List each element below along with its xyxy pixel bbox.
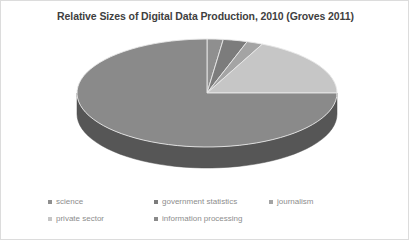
chart-screenshot: Relative Sizes of Digital Data Productio…	[0, 0, 409, 240]
pie-group	[77, 39, 337, 168]
legend-color-swatch	[154, 217, 158, 221]
legend-item-label: journalism	[277, 198, 313, 206]
legend-color-swatch	[269, 200, 273, 204]
legend-item-science[interactable]: science	[48, 193, 83, 210]
legend-item-information-processing[interactable]: information processing	[154, 210, 242, 227]
legend-color-swatch	[154, 200, 158, 204]
legend-row: private sectorinformation processing	[1, 210, 409, 227]
legend-item-label: science	[56, 198, 83, 206]
pie-chart-svg	[1, 31, 409, 186]
legend-item-label: information processing	[162, 215, 242, 223]
legend-item-private-sector[interactable]: private sector	[48, 210, 104, 227]
legend-color-swatch	[48, 200, 52, 204]
chart-legend: sciencegovernment statisticsjournalism p…	[1, 193, 409, 233]
legend-row: sciencegovernment statisticsjournalism	[1, 193, 409, 210]
legend-item-government-statistics[interactable]: government statistics	[154, 193, 237, 210]
chart-title: Relative Sizes of Digital Data Productio…	[1, 10, 409, 22]
legend-item-label: government statistics	[162, 198, 237, 206]
pie-chart-plot-area	[1, 31, 409, 186]
legend-color-swatch	[48, 217, 52, 221]
legend-item-journalism[interactable]: journalism	[269, 193, 313, 210]
legend-item-label: private sector	[56, 215, 104, 223]
